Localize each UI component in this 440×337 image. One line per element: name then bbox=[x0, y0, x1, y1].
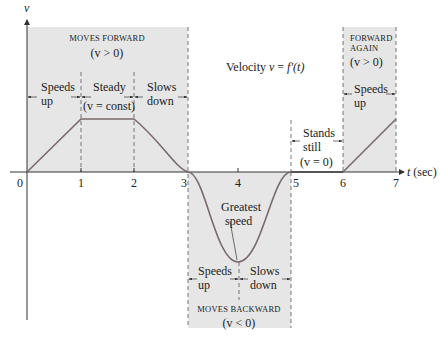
slows-down-label-2: Slows bbox=[250, 264, 280, 278]
greatest-speed-label-b: speed bbox=[225, 214, 252, 228]
t-axis-label: t (sec) bbox=[407, 165, 437, 179]
speeds-up-label-1: Speeds bbox=[41, 80, 75, 94]
chart-title: Velocity v = f′(t) bbox=[226, 60, 304, 74]
speeds-up-label-2: Speeds bbox=[198, 264, 232, 278]
velocity-diagram: v t (sec) 0 1 2 3 4 5 6 7 Velocity v = f… bbox=[0, 0, 440, 337]
forward-again-cond: (v > 0) bbox=[350, 55, 383, 69]
slows-down-label-1b: down bbox=[147, 94, 174, 108]
svg-text:4: 4 bbox=[235, 176, 241, 190]
forward-title: MOVES FORWARD bbox=[69, 33, 145, 43]
speeds-up-label-2b: up bbox=[198, 278, 210, 292]
steady-cond: (v = const) bbox=[83, 99, 135, 113]
svg-text:1: 1 bbox=[78, 176, 84, 190]
slows-down-label-2b: down bbox=[250, 278, 277, 292]
forward-again-title-1: FORWARD bbox=[350, 33, 393, 43]
speeds-up-label-3b: up bbox=[354, 96, 366, 110]
svg-text:2: 2 bbox=[131, 176, 137, 190]
svg-text:7: 7 bbox=[393, 176, 399, 190]
speeds-up-label-1b: up bbox=[41, 94, 53, 108]
v-axis-label: v bbox=[24, 1, 30, 15]
svg-text:0: 0 bbox=[17, 176, 23, 190]
steady-label: Steady bbox=[93, 80, 126, 94]
slows-down-label-1: Slows bbox=[147, 80, 177, 94]
stands-still-cond: (v = 0) bbox=[300, 155, 333, 169]
svg-text:5: 5 bbox=[293, 176, 299, 190]
greatest-speed-label: Greatest bbox=[221, 200, 262, 214]
speeds-up-label-3: Speeds bbox=[354, 82, 388, 96]
forward-cond: (v > 0) bbox=[91, 46, 124, 60]
forward-again-title-2: AGAIN bbox=[350, 43, 378, 53]
stands-still-label-b: still bbox=[303, 140, 322, 154]
svg-text:3: 3 bbox=[181, 176, 187, 190]
svg-text:6: 6 bbox=[340, 176, 346, 190]
backward-cond: (v < 0) bbox=[223, 316, 256, 330]
backward-title: MOVES BACKWARD bbox=[197, 304, 280, 314]
stands-still-label: Stands bbox=[303, 126, 335, 140]
